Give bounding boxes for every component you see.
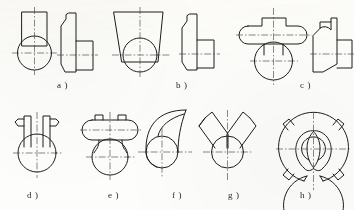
figure-label-f: f ) xyxy=(172,190,182,200)
figure-label-c: c ) xyxy=(300,80,311,90)
figure-c-front-view xyxy=(236,8,312,85)
figure-e-front-view xyxy=(80,112,143,180)
figure-a-side-view xyxy=(57,13,98,72)
figure-f-front-view xyxy=(138,110,192,178)
figure-h-front-view xyxy=(276,112,351,210)
figure-label-b: b ) xyxy=(176,80,188,90)
figure-f-lower-left xyxy=(146,152,157,167)
figure-g-left-arm-end xyxy=(199,118,205,126)
figure-c-side-arc xyxy=(320,22,331,30)
figure-e-neck-left xyxy=(94,140,99,153)
figure-c-side-view xyxy=(310,18,354,72)
figure-label-g: g ) xyxy=(228,190,240,200)
figure-g-left-arm-outline xyxy=(205,112,228,148)
figure-label-h: h ) xyxy=(300,190,312,200)
figure-d-right-prong-tab xyxy=(50,119,59,126)
figure-b-side-outline xyxy=(182,14,197,70)
figure-h-lug-bottom-left xyxy=(283,169,294,180)
figure-c-side-outline xyxy=(313,18,337,72)
figure-e-circle-outline xyxy=(92,139,128,175)
figure-c-head-outline xyxy=(239,18,307,44)
figure-a-side-step xyxy=(76,41,93,70)
figure-b-side-view xyxy=(179,14,220,70)
figure-d-right-prong-outline xyxy=(43,116,50,147)
figure-e-left-tab xyxy=(95,115,103,120)
figure-g-right-arm-inner xyxy=(240,118,256,148)
figure-a-front-view xyxy=(12,7,57,75)
figure-label-a: a ) xyxy=(57,80,68,90)
figure-label-e: e ) xyxy=(108,190,119,200)
drawing-sheet: .ol { fill: none; stroke: #1d1d1d; strok… xyxy=(0,0,354,210)
figure-g-right-arm-outline xyxy=(227,112,250,148)
figure-b-front-view xyxy=(112,7,170,78)
figure-a-side-outline xyxy=(61,13,76,72)
figure-d-front-view xyxy=(13,112,62,178)
drawing-canvas: .ol { fill: none; stroke: #1d1d1d; strok… xyxy=(0,0,354,210)
figure-h-lug-bottom-right xyxy=(333,169,344,180)
figure-g-front-view xyxy=(199,110,256,180)
figure-e-right-tab xyxy=(118,115,126,120)
figure-d-left-prong-outline xyxy=(24,116,31,147)
figure-f-tip-curve xyxy=(178,110,186,152)
figure-d-left-prong-tab xyxy=(15,119,24,126)
figure-label-d: d ) xyxy=(27,190,39,200)
figure-b-trapezoid-outline xyxy=(114,12,163,62)
